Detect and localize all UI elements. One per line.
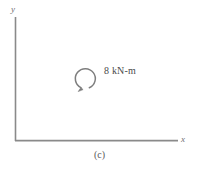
figure-caption: (c) [0,150,199,160]
moment-arrowhead [78,88,83,92]
moment-arc [75,69,95,88]
moment-value-label: 8 kN-m [104,66,136,76]
y-axis-label: y [11,5,15,14]
moment-arrow [75,69,95,92]
figure-canvas [0,0,199,174]
statics-figure: y x 8 kN-m (c) [0,0,199,174]
x-axis-label: x [181,135,185,144]
